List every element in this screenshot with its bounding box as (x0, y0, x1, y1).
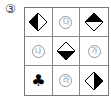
circled-label: 나 (32, 45, 45, 58)
diamond-bottom-filled-icon (56, 41, 76, 61)
grid-cell-7: ♣ (25, 66, 53, 95)
diamond-right-filled-icon (84, 71, 104, 91)
circled-label: 가 (88, 45, 101, 58)
grid-cell-5 (53, 37, 81, 66)
grid-cell-2: 다 (53, 8, 81, 37)
diamond-top-filled-icon (84, 12, 104, 32)
puzzle-grid: 다 나 가 ♣ 라 (24, 7, 109, 96)
circled-label: 다 (59, 16, 72, 29)
grid-cell-1 (25, 8, 53, 37)
circled-label: 라 (59, 74, 72, 87)
club-icon: ♣ (31, 73, 45, 89)
grid-cell-8: 라 (53, 66, 81, 95)
grid-cell-6: 가 (80, 37, 108, 66)
grid-cell-9 (80, 66, 108, 95)
diamond-left-filled-icon (28, 12, 48, 32)
grid-cell-3 (80, 8, 108, 37)
grid-cell-4: 나 (25, 37, 53, 66)
question-number: ③ (5, 2, 16, 16)
